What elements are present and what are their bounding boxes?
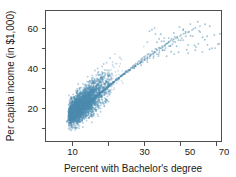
plot-svg: 60 40 20 10 30 50 70 Percent with Bachel… bbox=[0, 0, 236, 177]
x-tick-label-30: 30 bbox=[139, 146, 150, 157]
x-axis-title: Percent with Bachelor's degree bbox=[64, 163, 203, 174]
x-tick-marks bbox=[73, 142, 217, 146]
y-tick-label-20: 20 bbox=[27, 103, 38, 114]
y-tick-label-60: 60 bbox=[27, 23, 38, 34]
x-tick-label-10: 10 bbox=[67, 146, 78, 157]
y-tick-marks bbox=[42, 29, 46, 129]
x-tick-label-70: 70 bbox=[219, 146, 230, 157]
x-tick-label-50: 50 bbox=[185, 146, 196, 157]
y-axis-title: Per capita income (in $1,000) bbox=[5, 11, 16, 142]
scatter-plot-figure: 60 40 20 10 30 50 70 Percent with Bachel… bbox=[0, 0, 236, 177]
data-points-layer bbox=[66, 0, 223, 131]
y-tick-label-40: 40 bbox=[27, 63, 38, 74]
